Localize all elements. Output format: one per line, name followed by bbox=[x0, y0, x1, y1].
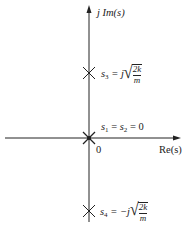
pole-s4-eq: = −j bbox=[110, 206, 130, 217]
equals: = bbox=[109, 121, 120, 132]
pole-s3-sub: 3 bbox=[105, 73, 109, 81]
real-axis-label: Re(s) bbox=[159, 145, 182, 156]
sqrt-expression: √2km bbox=[130, 202, 148, 223]
fraction: 2km bbox=[138, 202, 149, 223]
radical-icon: √ bbox=[124, 63, 133, 81]
pole-s4-sub: 4 bbox=[104, 211, 108, 219]
sqrt-expression: √2km bbox=[124, 64, 142, 85]
origin-label: 0 bbox=[96, 145, 101, 156]
s-plane-axes bbox=[0, 0, 186, 227]
fraction-denominator: m bbox=[134, 76, 141, 85]
pole-s4-label: s4 = −j√2km bbox=[100, 202, 148, 223]
fraction: 2km bbox=[132, 64, 143, 85]
pole-s3-eq: = j bbox=[111, 68, 124, 79]
radical-icon: √ bbox=[130, 201, 139, 219]
pole-origin-value: = 0 bbox=[127, 121, 143, 132]
pole-origin-label: s1 = s2 = 0 bbox=[101, 122, 144, 134]
pole-s3-label: s3 = j√2km bbox=[101, 64, 142, 85]
fraction-denominator: m bbox=[140, 214, 147, 223]
imaginary-axis-label: j Im(s) bbox=[97, 8, 125, 19]
real-axis-arrow-icon bbox=[173, 136, 181, 141]
imaginary-axis-arrow-icon bbox=[87, 5, 92, 13]
